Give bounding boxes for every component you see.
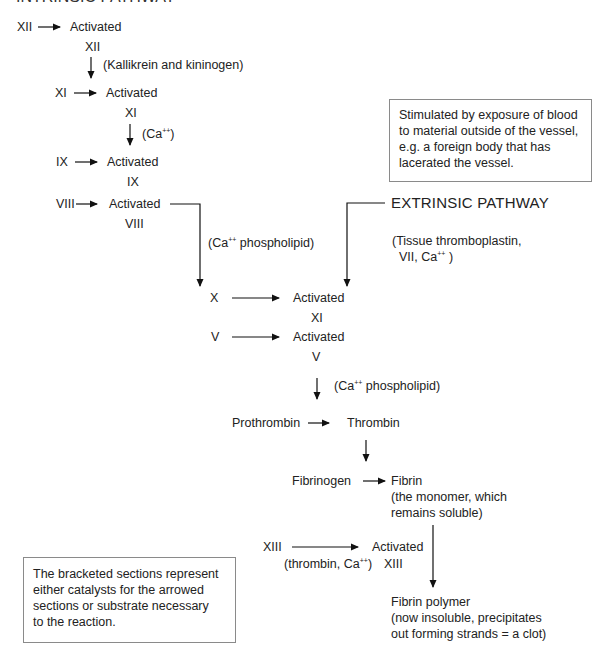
factor-x: X bbox=[210, 291, 218, 306]
activated-xiii-sub: XIII bbox=[384, 557, 403, 572]
fibrin-note-line2: remains soluble) bbox=[391, 506, 483, 521]
extrinsic-catalyst-line1: (Tissue thromboplastin, bbox=[392, 234, 521, 249]
catalyst-ca-phospholipid-viii: (Ca++ phospholipid) bbox=[208, 236, 314, 251]
fibrin-polymer-note-line1: (now insoluble, precipitates bbox=[391, 611, 542, 626]
fibrinogen: Fibrinogen bbox=[292, 474, 351, 489]
extrinsic-catalyst-line2: VII, Ca++ ) bbox=[399, 250, 453, 265]
extrinsic-note-box: Stimulated by exposure of blood to mater… bbox=[389, 99, 592, 182]
activated-xii-sub: XII bbox=[85, 40, 100, 55]
activated-v: Activated bbox=[293, 330, 344, 345]
thrombin: Thrombin bbox=[347, 416, 400, 431]
catalyst-kallikrein: (Kallikrein and kininogen) bbox=[103, 58, 243, 73]
extrinsic-pathway-label: EXTRINSIC PATHWAY bbox=[391, 195, 549, 210]
legend-note-box: The bracketed sections represent either … bbox=[23, 557, 236, 643]
factor-viii: VIII bbox=[56, 197, 75, 212]
activated-xi-sub: XI bbox=[125, 106, 137, 121]
activated-xi: Activated bbox=[106, 86, 157, 101]
activated-x: Activated bbox=[293, 291, 344, 306]
arrow-extrinsic-bracket bbox=[347, 203, 385, 286]
fibrin-note-line1: (the monomer, which bbox=[391, 490, 507, 505]
activated-v-sub: V bbox=[312, 350, 320, 365]
fibrin: Fibrin bbox=[391, 474, 422, 489]
prothrombin: Prothrombin bbox=[232, 416, 300, 431]
fibrin-polymer: Fibrin polymer bbox=[391, 595, 470, 610]
catalyst-thrombin-ca: (thrombin, Ca++) bbox=[284, 557, 372, 572]
fibrin-polymer-note-line2: out forming strands = a clot) bbox=[391, 627, 546, 642]
factor-xi: XI bbox=[55, 86, 67, 101]
activated-xiii: Activated bbox=[372, 540, 423, 555]
extrinsic-note-text: Stimulated by exposure of blood to mater… bbox=[399, 107, 578, 171]
activated-xii: Activated bbox=[70, 20, 121, 35]
catalyst-ca-xi: (Ca++) bbox=[142, 127, 175, 142]
factor-xiii: XIII bbox=[263, 540, 282, 555]
factor-xii: XII bbox=[17, 20, 32, 35]
catalyst-ca-phospholipid-v: (Ca++ phospholipid) bbox=[334, 379, 440, 394]
diagram-title: INTRINSIC PATHWAY bbox=[16, 0, 175, 6]
arrow-viii-bracket bbox=[170, 204, 200, 286]
legend-note-text: The bracketed sections represent either … bbox=[33, 566, 219, 630]
factor-ix: IX bbox=[56, 155, 68, 170]
activated-ix-sub: IX bbox=[127, 175, 139, 190]
activated-x-sub: XI bbox=[311, 311, 323, 326]
factor-v: V bbox=[211, 330, 219, 345]
activated-ix: Activated bbox=[107, 155, 158, 170]
activated-viii: Activated bbox=[109, 197, 160, 212]
activated-viii-sub: VIII bbox=[125, 217, 144, 232]
